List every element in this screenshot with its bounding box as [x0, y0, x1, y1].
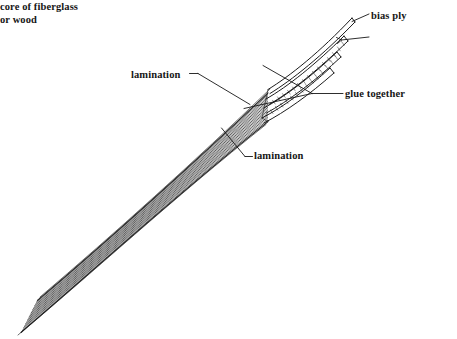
label-glue-together: glue together — [345, 87, 405, 100]
diagram-canvas: bias ply core of fiberglass or wood glue… — [0, 0, 457, 339]
label-bias-ply: bias ply — [371, 9, 407, 22]
label-lamination-lower: lamination — [254, 149, 303, 162]
strip-lamination-a — [264, 52, 341, 114]
bias-ply-leader — [352, 14, 369, 22]
laminated-limb-illustration — [0, 0, 457, 339]
laminate-bundle — [18, 18, 355, 335]
lamination-upper-leader — [190, 74, 251, 105]
label-lamination-upper: lamination — [131, 68, 180, 81]
